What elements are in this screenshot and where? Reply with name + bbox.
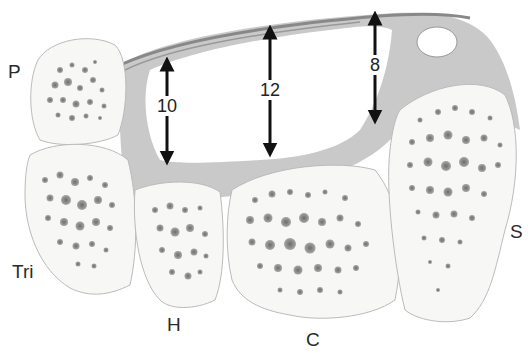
- carpal-tunnel-diagram: 10 12 8 P Tri H C S: [0, 0, 532, 355]
- bone-triquetrum: [25, 144, 136, 294]
- bone-pisiform: [31, 39, 126, 145]
- measurement-label-10: 10: [157, 96, 177, 116]
- bone-label-triquetrum: Tri: [12, 262, 33, 281]
- bone-label-pisiform: P: [8, 62, 21, 81]
- bone-hamate: [134, 182, 223, 308]
- bone-label-hamate: H: [167, 315, 181, 334]
- measurement-label-12: 12: [260, 80, 280, 100]
- bone-scaphoid: [389, 84, 517, 321]
- bone-label-capitate: C: [306, 330, 320, 349]
- bone-label-scaphoid: S: [510, 222, 523, 241]
- vessel-opening: [417, 27, 457, 57]
- measurement-label-8: 8: [370, 55, 380, 75]
